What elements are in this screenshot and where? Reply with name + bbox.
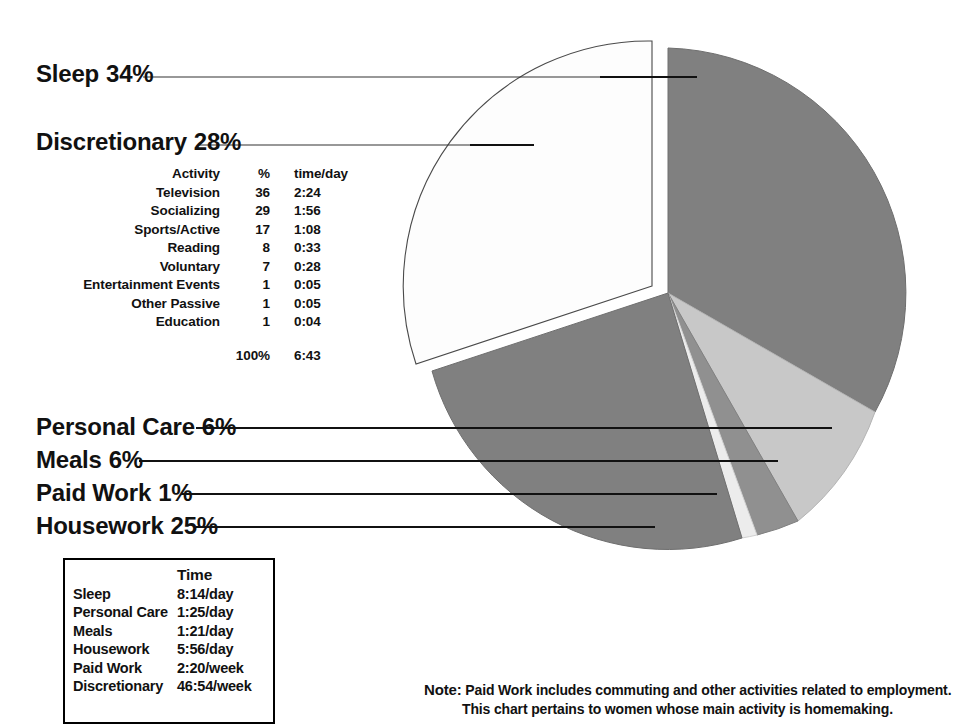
pie-slice-discretionary-outline	[403, 41, 652, 364]
time-cell-name: Meals	[73, 622, 177, 641]
cell-time: 0:04	[294, 313, 348, 332]
cell-time: 0:05	[294, 276, 348, 295]
cell-percent: 1	[234, 313, 294, 332]
cell-percent: 29	[234, 202, 294, 221]
time-cell-time: 1:21/day	[177, 622, 273, 641]
callout-label-paid-work: Paid Work1%	[36, 479, 192, 507]
callout-label-personal-care: Personal Care6%	[36, 413, 236, 441]
cell-time: 0:28	[294, 258, 348, 277]
pie-slice-housework	[432, 293, 742, 550]
total-percent: 100%	[234, 332, 294, 366]
callout-label-sleep: Sleep34%	[36, 60, 153, 88]
cell-percent: 7	[234, 258, 294, 277]
time-row: Meals1:21/day	[73, 622, 273, 641]
column-header-activity: Activity	[60, 165, 234, 184]
table-total-row: 100% 6:43	[60, 332, 348, 366]
table-row: Reading80:33	[60, 239, 348, 258]
callout-pct-discretionary: 28%	[194, 128, 241, 155]
callout-name-discretionary: Discretionary	[36, 128, 187, 155]
pie-slice-meals	[668, 293, 798, 535]
callout-label-housework: Housework25%	[36, 512, 218, 540]
callout-pct-paid-work: 1%	[158, 479, 192, 506]
cell-percent: 1	[234, 276, 294, 295]
column-header-time: time/day	[294, 165, 348, 184]
callout-pct-housework: 25%	[171, 512, 218, 539]
table-row: Television362:24	[60, 184, 348, 203]
time-cell-time: 2:20/week	[177, 659, 273, 678]
callout-name-meals: Meals	[36, 446, 102, 473]
cell-activity: Socializing	[60, 202, 234, 221]
table-header-row: Activity % time/day	[60, 165, 348, 184]
time-column-header-time: Time	[177, 566, 273, 585]
time-cell-time: 8:14/day	[177, 585, 273, 604]
time-row: Housework5:56/day	[73, 640, 273, 659]
total-activity	[60, 332, 234, 366]
table-row: Other Passive10:05	[60, 295, 348, 314]
time-summary-table: Time Sleep8:14/dayPersonal Care1:25/dayM…	[73, 566, 273, 696]
pie-slice-discretionary	[403, 41, 652, 364]
time-row: Sleep8:14/day	[73, 585, 273, 604]
time-row: Discretionary46:54/week	[73, 677, 273, 696]
cell-percent: 8	[234, 239, 294, 258]
cell-activity: Entertainment Events	[60, 276, 234, 295]
cell-activity: Television	[60, 184, 234, 203]
total-time: 6:43	[294, 332, 348, 366]
cell-percent: 1	[234, 295, 294, 314]
callout-name-paid-work: Paid Work	[36, 479, 151, 506]
note-line-2: This chart pertains to women whose main …	[462, 700, 960, 719]
callout-pct-meals: 6%	[109, 446, 143, 473]
time-header-row: Time	[73, 566, 273, 585]
column-header-percent: %	[234, 165, 294, 184]
note-block: Note: Paid Work includes commuting and o…	[424, 680, 960, 719]
callout-name-personal-care: Personal Care	[36, 413, 195, 440]
time-cell-name: Sleep	[73, 585, 177, 604]
time-cell-time: 1:25/day	[177, 603, 273, 622]
callout-name-sleep: Sleep	[36, 60, 99, 87]
cell-activity: Reading	[60, 239, 234, 258]
table-row: Entertainment Events10:05	[60, 276, 348, 295]
pie-slice-paid-work	[668, 293, 757, 538]
cell-time: 0:05	[294, 295, 348, 314]
callout-name-housework: Housework	[36, 512, 164, 539]
discretionary-breakdown-table: Activity % time/day Television362:24Soci…	[60, 165, 348, 365]
cell-activity: Other Passive	[60, 295, 234, 314]
cell-activity: Voluntary	[60, 258, 234, 277]
cell-time: 2:24	[294, 184, 348, 203]
time-cell-name: Personal Care	[73, 603, 177, 622]
callout-label-discretionary: Discretionary28%	[36, 128, 241, 156]
note-label: Note:	[424, 681, 462, 698]
callout-pct-sleep: 34%	[106, 60, 153, 87]
table-row: Socializing291:56	[60, 202, 348, 221]
time-row: Personal Care1:25/day	[73, 603, 273, 622]
callout-label-meals: Meals6%	[36, 446, 143, 474]
table-row: Education10:04	[60, 313, 348, 332]
time-column-header-name	[73, 566, 177, 585]
time-cell-name: Paid Work	[73, 659, 177, 678]
note-line-1: Paid Work includes commuting and other a…	[465, 682, 951, 698]
table-row: Voluntary70:28	[60, 258, 348, 277]
cell-time: 1:08	[294, 221, 348, 240]
time-cell-time: 5:56/day	[177, 640, 273, 659]
cell-activity: Education	[60, 313, 234, 332]
table-row: Sports/Active171:08	[60, 221, 348, 240]
cell-time: 1:56	[294, 202, 348, 221]
pie-slice-sleep	[668, 48, 906, 412]
time-summary-box: Time Sleep8:14/dayPersonal Care1:25/dayM…	[63, 558, 275, 724]
cell-activity: Sports/Active	[60, 221, 234, 240]
cell-time: 0:33	[294, 239, 348, 258]
cell-percent: 17	[234, 221, 294, 240]
cell-percent: 36	[234, 184, 294, 203]
callout-pct-personal-care: 6%	[202, 413, 236, 440]
time-cell-name: Housework	[73, 640, 177, 659]
time-row: Paid Work2:20/week	[73, 659, 273, 678]
time-cell-name: Discretionary	[73, 677, 177, 696]
pie-slice-personal-care	[668, 293, 875, 521]
time-cell-time: 46:54/week	[177, 677, 273, 696]
